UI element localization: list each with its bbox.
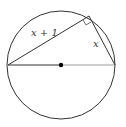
right-angle-marker (83, 20, 91, 25)
center-dot (59, 63, 63, 67)
label-x: x (93, 38, 99, 49)
circle-triangle-diagram: x + 1 x (0, 0, 126, 127)
label-x-plus-1: x + 1 (31, 27, 58, 38)
chord-long (8, 16, 89, 65)
